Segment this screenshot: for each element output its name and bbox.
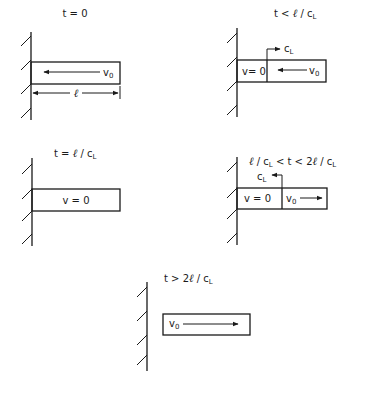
panel-title: t = ℓ / cL <box>54 147 97 161</box>
impact-wave-diagram: t = 0 v0 ℓ t < ℓ / cL cL <box>0 0 366 393</box>
velocity-label: v0 <box>103 67 113 80</box>
rigid-wall <box>22 158 32 246</box>
velocity-label: v0 <box>286 193 296 206</box>
panel-t-gt-2l-over-cl: t > 2ℓ / cL v0 <box>137 272 250 371</box>
rigid-wall <box>227 28 237 117</box>
wave-speed-label: cL <box>257 171 267 184</box>
panel-title: ℓ / cL < t < 2ℓ / cL <box>249 155 336 169</box>
panel-t-lt-l-over-cl: t < ℓ / cL cL v= 0 v0 <box>227 7 326 117</box>
rigid-wall <box>227 157 237 245</box>
rigid-wall <box>21 32 31 120</box>
wave-arrow-right-icon <box>267 49 280 60</box>
velocity-label: v = 0 <box>62 195 89 206</box>
panel-title: t > 2ℓ / cL <box>164 272 213 286</box>
length-label: ℓ <box>74 87 79 100</box>
rigid-wall <box>137 282 147 371</box>
length-dimension: ℓ <box>33 86 120 100</box>
panel-title: t = 0 <box>62 8 87 19</box>
left-zone-label: v = 0 <box>244 193 271 204</box>
wave-speed-label: cL <box>284 43 294 56</box>
velocity-label: v0 <box>169 318 179 331</box>
left-zone-label: v= 0 <box>242 66 266 77</box>
panel-t-eq-l-over-cl: t = ℓ / cL v = 0 <box>22 147 120 246</box>
wave-arrow-left-icon <box>272 175 282 188</box>
panel-title: t < ℓ / cL <box>274 7 317 21</box>
panel-t0: t = 0 v0 ℓ <box>21 8 120 120</box>
panel-t-between: ℓ / cL < t < 2ℓ / cL cL v = 0 v0 <box>227 155 336 245</box>
velocity-label: v0 <box>309 65 319 78</box>
